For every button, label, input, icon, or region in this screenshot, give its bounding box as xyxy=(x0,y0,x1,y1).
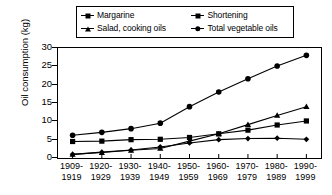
legend-entry-margarine: Margarine xyxy=(81,11,191,20)
data-point xyxy=(158,137,163,142)
x-tick-label-1990-1999: 1990-1999 xyxy=(283,161,327,183)
data-point xyxy=(187,104,193,110)
data-point xyxy=(216,89,222,95)
data-point xyxy=(245,128,250,133)
series-salad-cooking-oils xyxy=(70,104,310,157)
series-canvas xyxy=(58,48,321,158)
legend-row-2: Salad, cooking oils Total vegetable oils xyxy=(81,22,290,35)
diamond-marker-icon xyxy=(81,11,94,20)
series-line xyxy=(73,107,307,155)
oil-consumption-chart: Margarine Shortening Salad, cooking oils… xyxy=(0,0,332,195)
legend-label-margarine: Margarine xyxy=(97,11,134,20)
x-tick-line-1: 1990- xyxy=(283,161,327,172)
square-marker-icon xyxy=(191,11,204,20)
legend-label-shortening: Shortening xyxy=(207,11,247,20)
legend-row-1: Margarine Shortening xyxy=(81,9,290,22)
data-point xyxy=(245,76,251,82)
triangle-marker-icon xyxy=(81,24,94,33)
data-point xyxy=(275,122,280,127)
y-tick-label-25: 25 xyxy=(30,61,52,71)
x-tick-line-2: 1999 xyxy=(283,172,327,183)
legend-entry-shortening: Shortening xyxy=(191,11,290,20)
y-axis-title: Oil consumption (kg) xyxy=(19,0,30,135)
x-axis-tick-labels: 1909-19191920-19291930-19391940-19491950… xyxy=(57,161,320,191)
data-point xyxy=(274,135,280,141)
data-point xyxy=(99,139,104,144)
series-line xyxy=(73,55,307,135)
data-point xyxy=(303,136,309,142)
legend-label-salad-cooking-oils: Salad, cooking oils xyxy=(97,24,166,33)
data-point xyxy=(303,104,309,110)
data-point xyxy=(99,130,105,136)
data-point xyxy=(70,139,75,144)
data-point xyxy=(128,126,134,132)
data-point xyxy=(128,137,133,142)
y-tick-label-20: 20 xyxy=(30,79,52,89)
data-point xyxy=(157,120,163,126)
y-tick-label-30: 30 xyxy=(30,42,52,52)
data-point xyxy=(304,118,309,123)
chart-legend: Margarine Shortening Salad, cooking oils… xyxy=(76,6,294,38)
data-point xyxy=(216,137,222,143)
circle-marker-icon xyxy=(191,24,204,33)
legend-entry-salad-cooking-oils: Salad, cooking oils xyxy=(81,24,191,33)
y-tick-label-10: 10 xyxy=(30,116,52,126)
data-point xyxy=(70,132,76,138)
plot-area xyxy=(57,47,322,159)
data-point xyxy=(274,63,280,69)
data-point xyxy=(245,136,251,142)
legend-entry-total-vegetable-oils: Total vegetable oils xyxy=(191,24,290,33)
data-point xyxy=(304,53,310,59)
y-axis-tick-labels: 051015202530 xyxy=(30,47,52,157)
y-tick-label-15: 15 xyxy=(30,97,52,107)
legend-label-total-vegetable-oils: Total vegetable oils xyxy=(207,24,277,33)
y-tick-label-5: 5 xyxy=(30,134,52,144)
